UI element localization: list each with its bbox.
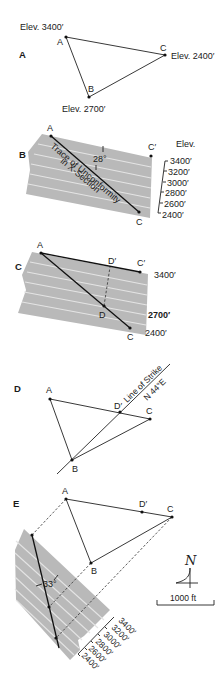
point-c-prime-label: C′: [148, 142, 156, 152]
elev-3400: 3400′: [154, 270, 176, 280]
elev-2400: 2400′: [162, 210, 184, 220]
point-d-prime: [140, 510, 143, 513]
point-a-label: A: [47, 123, 53, 133]
north-arrow-icon: [176, 568, 198, 583]
point-b-label: B: [88, 84, 94, 94]
triangle-abc: [66, 499, 172, 563]
point-c-label: C: [160, 43, 167, 53]
trace-point-b: [47, 605, 50, 608]
point-a-label: A: [46, 385, 52, 395]
point-c-prime: [149, 154, 152, 157]
point-c-prime-label: C′: [137, 258, 145, 268]
point-c-prime: [138, 270, 141, 273]
panel-a: A Elev. 3400′ A C Elev. 2400′ B Elev. 27…: [19, 22, 215, 114]
panel-d-label: D: [14, 383, 21, 394]
panel-d: D A C B D′ Line of Strike N 44°E: [14, 363, 170, 474]
point-d-prime-label: D′: [139, 499, 147, 509]
point-c: [148, 417, 151, 420]
panel-c-label: C: [15, 261, 22, 272]
point-b: [87, 95, 90, 98]
panel-e: E A C B D′ 33°: [13, 486, 214, 672]
point-a: [64, 35, 67, 38]
panel-a-label: A: [19, 49, 26, 60]
elev-b-label: Elev. 2700′: [62, 104, 106, 114]
point-c-label: C: [167, 504, 174, 514]
geology-diagram: A Elev. 3400′ A C Elev. 2400′ B Elev. 27…: [0, 0, 220, 693]
elev-2600: 2600′: [164, 199, 186, 209]
point-a-label: A: [37, 240, 43, 250]
point-b: [89, 561, 92, 564]
triangle-abc: [50, 399, 150, 460]
elev-2800: 2800′: [165, 188, 187, 198]
point-a-label: A: [57, 37, 63, 47]
point-d-prime-label: D′: [108, 256, 116, 266]
panel-b: B A C C′ 28° Trace of Unconformity in X-…: [19, 123, 195, 227]
scale-label: 1000 ft: [170, 593, 197, 603]
point-a: [48, 397, 51, 400]
panel-c: C A D′ C′ D C 3400′ 2700′ 2400′: [15, 240, 176, 342]
point-a: [49, 134, 52, 137]
triangle-abc: [66, 37, 165, 97]
elev-a-label: Elev. 3400′: [20, 22, 64, 32]
point-d: [102, 304, 105, 307]
point-b: [70, 458, 73, 461]
point-c: [170, 515, 173, 518]
elev-2400: 2400′: [145, 328, 167, 338]
panel-e-label: E: [13, 498, 19, 509]
point-a: [39, 251, 42, 254]
projection-a: [32, 499, 66, 535]
point-b-label: B: [91, 566, 97, 576]
trace-point-a: [30, 533, 33, 536]
point-c-label: C: [146, 406, 153, 416]
point-a-label: A: [62, 486, 68, 496]
elev-3200: 3200′: [168, 167, 190, 177]
point-b-label: B: [72, 464, 78, 474]
elev-3000: 3000′: [167, 178, 189, 188]
point-a: [64, 497, 67, 500]
point-c: [137, 210, 140, 213]
north-symbol: N: [184, 553, 197, 568]
panel-b-label: B: [19, 149, 26, 160]
dip-angle-label: 33°: [43, 579, 57, 589]
point-c-label: C: [136, 217, 143, 227]
north-arrow: N: [176, 553, 198, 588]
elev-scale-title: Elev.: [176, 139, 195, 149]
dip-angle-label: 28°: [93, 154, 107, 164]
point-c: [128, 326, 131, 329]
elev-c-label: Elev. 2400′: [171, 51, 215, 61]
point-d-label: D: [99, 310, 106, 320]
point-d-prime-label: D′: [114, 401, 122, 411]
elev-3400: 3400′: [170, 156, 192, 166]
point-c: [163, 53, 166, 56]
point-c-label: C: [127, 332, 134, 342]
cross-section-band: [18, 252, 148, 335]
trace-point-c: [54, 636, 57, 639]
elev-2700: 2700′: [148, 310, 170, 320]
